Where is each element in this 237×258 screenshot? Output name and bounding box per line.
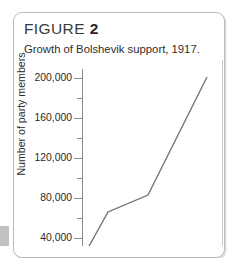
figure-caption: Growth of Bolshevik support, 1917. [24, 42, 216, 57]
figure-header: FIGURE 2 Growth of Bolshevik support, 19… [24, 19, 216, 57]
figure-number: 2 [90, 20, 99, 37]
figure-box: FIGURE 2 Growth of Bolshevik support, 19… [13, 12, 225, 258]
page-edge-artifact [0, 226, 9, 246]
figure-label: FIGURE [24, 20, 85, 37]
figure-title: FIGURE 2 [24, 19, 216, 38]
